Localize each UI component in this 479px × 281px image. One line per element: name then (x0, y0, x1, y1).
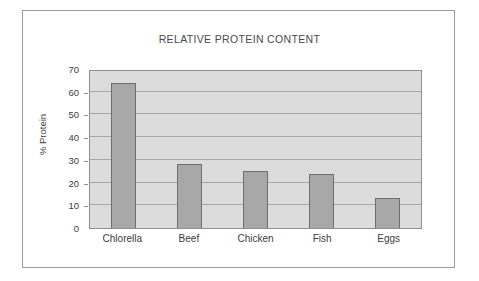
y-tick-mark (84, 184, 88, 185)
bar-slot (222, 71, 288, 228)
bar-chicken[interactable] (243, 171, 268, 228)
x-axis-labels: ChlorellaBeefChickenFishEggs (89, 233, 422, 244)
bar-group (90, 71, 421, 228)
y-tick-label: 0 (45, 223, 79, 234)
y-tick-mark (84, 161, 88, 162)
y-tick-label: 40 (45, 132, 79, 143)
y-tick-mark (84, 93, 88, 94)
chart-page: RELATIVE PROTEIN CONTENT % Protein 01020… (0, 0, 479, 281)
bar-chlorella[interactable] (111, 83, 136, 228)
y-tick-mark (84, 115, 88, 116)
bar-eggs[interactable] (375, 198, 400, 228)
y-tick-mark (84, 138, 88, 139)
y-tick-mark (84, 206, 88, 207)
x-axis-label-chlorella: Chlorella (89, 233, 156, 244)
chart-frame: RELATIVE PROTEIN CONTENT % Protein 01020… (22, 10, 455, 268)
y-tick-label: 60 (45, 87, 79, 98)
plot-area (89, 70, 422, 229)
y-tick-label: 30 (45, 155, 79, 166)
bar-slot (355, 71, 421, 228)
x-axis-label-beef: Beef (156, 233, 223, 244)
bar-slot (289, 71, 355, 228)
x-axis-label-fish: Fish (289, 233, 356, 244)
bar-slot (90, 71, 156, 228)
y-tick-label: 70 (45, 64, 79, 75)
y-tick-label: 20 (45, 178, 79, 189)
x-axis-label-chicken: Chicken (222, 233, 289, 244)
bar-fish[interactable] (309, 174, 334, 229)
x-axis-label-eggs: Eggs (355, 233, 422, 244)
bar-slot (156, 71, 222, 228)
bar-beef[interactable] (177, 164, 202, 228)
chart-title: RELATIVE PROTEIN CONTENT (23, 33, 456, 45)
y-tick-label: 10 (45, 200, 79, 211)
y-tick-label: 50 (45, 109, 79, 120)
